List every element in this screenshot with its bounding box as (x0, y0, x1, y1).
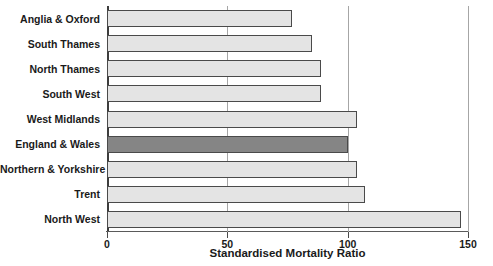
category-label: Anglia & Oxford (0, 13, 100, 25)
category-label: Northern & Yorkshire (0, 163, 100, 175)
x-axis-title: Standardised Mortality Ratio (107, 247, 468, 259)
bar (107, 186, 365, 203)
category-label: Trent (0, 188, 100, 200)
category-label: South Thames (0, 38, 100, 50)
x-axis-line (106, 231, 468, 232)
bar (107, 161, 357, 178)
bar (107, 60, 321, 77)
bar (107, 211, 461, 228)
bar (107, 10, 292, 27)
bar (107, 111, 357, 128)
category-label: South West (0, 88, 100, 100)
plot-area (107, 6, 468, 232)
category-label-column: Anglia & OxfordSouth ThamesNorth ThamesS… (0, 0, 104, 232)
chart-container: Anglia & OxfordSouth ThamesNorth ThamesS… (0, 0, 493, 266)
gridline-150 (468, 6, 469, 232)
bar (107, 136, 348, 153)
category-label: North Thames (0, 63, 100, 75)
category-label: North West (0, 213, 100, 225)
category-label: West Midlands (0, 113, 100, 125)
bar (107, 35, 312, 52)
bar (107, 85, 321, 102)
category-label: England & Wales (0, 138, 100, 150)
